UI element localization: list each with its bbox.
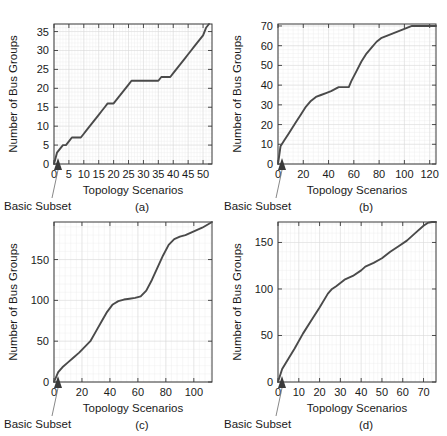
panel-a: 05101520253035404550 05101520253035 Numb…	[0, 0, 223, 218]
x-tick-label: 5	[66, 168, 72, 180]
y-tick-label: 25	[37, 63, 49, 75]
y-tick-label: 150	[31, 254, 49, 266]
panel-b-ylabel: Number of Bus Groups	[231, 35, 243, 153]
y-tick-label: 100	[31, 294, 49, 306]
x-tick-label: 40	[355, 386, 367, 398]
x-tick-label: 40	[104, 386, 116, 398]
y-tick-label: 30	[37, 44, 49, 56]
panel-c-xticklabels: 020406080100	[51, 386, 203, 398]
panel-b-caption: (b)	[359, 201, 373, 213]
y-tick-label: 70	[261, 20, 273, 32]
y-tick-label: 0	[267, 376, 273, 388]
y-tick-label: 15	[37, 101, 49, 113]
x-tick-label: 25	[122, 168, 134, 180]
y-tick-label: 100	[255, 283, 273, 295]
y-tick-label: 5	[43, 139, 49, 151]
y-tick-label: 150	[255, 236, 273, 248]
panel-c-svg: 020406080100 050100150 Number of Bus Gro…	[0, 218, 223, 436]
panel-b-annotation-label: Basic Subset	[224, 200, 292, 212]
panel-a-annotation-label: Basic Subset	[4, 200, 72, 212]
x-tick-label: 10	[293, 386, 305, 398]
y-tick-label: 10	[37, 120, 49, 132]
x-tick-label: 70	[417, 386, 429, 398]
panel-d-caption: (d)	[359, 419, 373, 431]
x-tick-label: 35	[152, 168, 164, 180]
y-tick-label: 0	[43, 376, 49, 388]
panel-b-axes-box	[278, 24, 436, 164]
panel-c-yticklabels: 050100150	[31, 254, 49, 388]
x-tick-label: 60	[348, 168, 360, 180]
y-tick-label: 60	[261, 40, 273, 52]
x-tick-label: 20	[297, 168, 309, 180]
panel-a-svg: 05101520253035404550 05101520253035 Numb…	[0, 0, 223, 218]
x-tick-label: 15	[93, 168, 105, 180]
panel-c-caption: (c)	[135, 419, 149, 431]
y-tick-label: 20	[261, 119, 273, 131]
y-tick-label: 50	[261, 59, 273, 71]
panel-c-grid	[54, 222, 212, 382]
panel-c-annotation-label: Basic Subset	[4, 418, 72, 430]
x-tick-label: 45	[182, 168, 194, 180]
panel-a-grid	[54, 24, 212, 164]
x-tick-label: 120	[421, 168, 439, 180]
y-tick-label: 20	[37, 82, 49, 94]
panel-c: 020406080100 050100150 Number of Bus Gro…	[0, 218, 223, 436]
panel-b-grid	[278, 24, 436, 164]
x-tick-label: 50	[197, 168, 209, 180]
x-tick-label: 100	[185, 386, 203, 398]
panel-b-yticklabels: 010203040506070	[261, 20, 273, 170]
panel-b: 020406080100120 010203040506070 Number o…	[224, 0, 447, 218]
x-tick-label: 20	[76, 386, 88, 398]
x-tick-label: 10	[78, 168, 90, 180]
x-tick-label: 80	[160, 386, 172, 398]
y-tick-label: 0	[267, 158, 273, 170]
x-tick-label: 50	[376, 386, 388, 398]
panel-d-annotation-label: Basic Subset	[224, 418, 292, 430]
x-tick-label: 30	[137, 168, 149, 180]
panel-b-ticks	[278, 24, 436, 164]
panel-c-xlabel: Topology Scenarios	[83, 402, 184, 414]
x-tick-label: 30	[334, 386, 346, 398]
y-tick-label: 35	[37, 26, 49, 38]
x-tick-label: 20	[313, 386, 325, 398]
panel-a-ylabel: Number of Bus Groups	[7, 35, 19, 153]
x-tick-label: 60	[397, 386, 409, 398]
panel-d: 010203040506070 050100150 Number of Bus …	[224, 218, 447, 436]
x-tick-label: 40	[322, 168, 334, 180]
y-tick-label: 50	[37, 335, 49, 347]
panel-d-grid	[278, 222, 436, 382]
panel-b-xticklabels: 020406080100120	[275, 168, 439, 180]
panel-c-ylabel: Number of Bus Groups	[7, 243, 19, 361]
panel-b-xlabel: Topology Scenarios	[307, 184, 408, 196]
panel-d-ylabel: Number of Bus Groups	[231, 243, 243, 361]
panel-d-xlabel: Topology Scenarios	[307, 402, 408, 414]
panel-a-yticklabels: 05101520253035	[37, 26, 49, 170]
y-tick-label: 50	[261, 329, 273, 341]
y-tick-label: 30	[261, 99, 273, 111]
panel-d-xticklabels: 010203040506070	[275, 386, 430, 398]
panel-b-curve	[278, 26, 436, 164]
y-tick-label: 0	[43, 158, 49, 170]
x-tick-label: 40	[167, 168, 179, 180]
x-tick-label: 60	[132, 386, 144, 398]
y-tick-label: 10	[261, 138, 273, 150]
panel-d-svg: 010203040506070 050100150 Number of Bus …	[224, 218, 447, 436]
x-tick-label: 100	[395, 168, 413, 180]
panel-a-xticklabels: 05101520253035404550	[51, 168, 209, 180]
x-tick-label: 20	[107, 168, 119, 180]
x-tick-label: 80	[373, 168, 385, 180]
panel-a-caption: (a)	[135, 201, 149, 213]
y-tick-label: 40	[261, 79, 273, 91]
panel-d-yticklabels: 050100150	[255, 236, 273, 388]
panel-b-svg: 020406080100120 010203040506070 Number o…	[224, 0, 447, 218]
panel-a-xlabel: Topology Scenarios	[83, 184, 184, 196]
figure-container: 05101520253035404550 05101520253035 Numb…	[0, 0, 447, 436]
